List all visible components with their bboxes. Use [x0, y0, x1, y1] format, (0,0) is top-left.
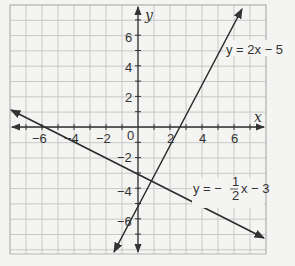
x-tick-label: −2 — [96, 131, 111, 146]
y-tick-label: 6 — [125, 30, 132, 45]
x-tick-label: 4 — [199, 131, 206, 146]
x-tick-label: −4 — [64, 131, 79, 146]
equation-label-2-suffix: x − 3 — [241, 181, 270, 196]
x-tick-label: 6 — [231, 131, 238, 146]
x-axis-label: x — [254, 109, 262, 125]
y-tick-label: 2 — [125, 90, 132, 105]
y-tick-label: −2 — [117, 150, 132, 165]
y-axis-label: y — [144, 7, 154, 23]
equation-label-2-prefix: y = − — [193, 181, 222, 196]
origin-label: 0 — [127, 128, 134, 143]
x-tick-label: 2 — [167, 131, 174, 146]
x-tick-label: −6 — [32, 131, 47, 146]
y-tick-label: 4 — [125, 60, 132, 75]
equation-label-1: y = 2x − 5 — [226, 42, 283, 57]
coordinate-graph: y x 0 −6 −4 −2 2 4 6 6 4 2 −2 −4 −6 y = … — [0, 0, 295, 266]
equation-label-2-num: 1 — [232, 174, 239, 189]
y-tick-label: −4 — [117, 184, 132, 199]
equation-label-2-den: 2 — [232, 188, 239, 203]
y-tick-label: −6 — [117, 214, 132, 229]
